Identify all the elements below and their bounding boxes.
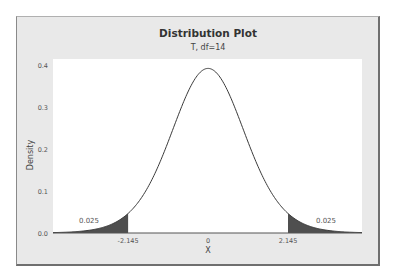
chart-title: Distribution Plot <box>159 27 257 39</box>
x-axis-ticks: -2.14502.145 <box>118 237 298 245</box>
y-axis-ticks: 0.00.10.20.30.4 <box>38 62 48 238</box>
x-tick-label: 2.145 <box>279 237 298 245</box>
x-tick-label: -2.145 <box>118 237 139 245</box>
distribution-plot: Distribution Plot T, df=14 0.00.10.20.30… <box>0 0 396 280</box>
plot-area <box>53 59 362 233</box>
y-tick-label: 0.2 <box>38 146 48 154</box>
y-tick-label: 0.0 <box>38 230 48 238</box>
y-tick-label: 0.1 <box>38 188 48 196</box>
x-tick-label: 0 <box>206 237 210 245</box>
chart-subtitle: T, df=14 <box>190 43 226 52</box>
left-tail-area-label: 0.025 <box>79 217 99 225</box>
y-tick-label: 0.3 <box>38 104 48 112</box>
y-tick-label: 0.4 <box>38 62 48 70</box>
right-tail-area-label: 0.025 <box>316 217 336 225</box>
y-axis-label: Density <box>26 140 35 171</box>
x-axis-label: X <box>205 246 211 255</box>
